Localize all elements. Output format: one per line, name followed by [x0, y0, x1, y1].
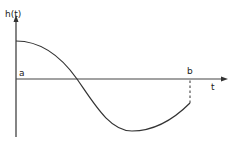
diagram-canvas — [0, 0, 233, 146]
y-axis-label: h(t) — [5, 10, 21, 19]
x-axis-arrow-icon — [221, 77, 228, 82]
end-label: b — [187, 67, 193, 76]
x-axis-label: t — [211, 83, 215, 92]
origin-label: a — [19, 69, 25, 78]
h-curve — [16, 41, 190, 131]
